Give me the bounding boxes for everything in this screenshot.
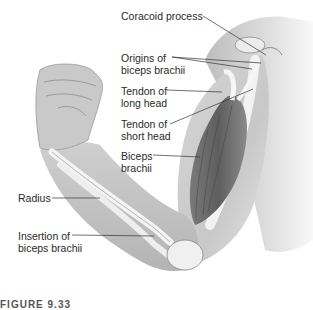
figure-caption: FIGURE 9.33	[0, 299, 71, 310]
label-line-1: Tendon of	[121, 118, 171, 130]
label-radius: Radius	[18, 192, 51, 204]
label-biceps-brachii: Biceps brachii	[121, 150, 153, 174]
label-line-2: long head	[121, 97, 167, 109]
label-text: Coracoid process	[121, 10, 203, 22]
label-line-1: Biceps	[121, 150, 153, 162]
label-insertion-of-biceps-brachii: Insertion of biceps brachii	[18, 230, 82, 254]
elbow-joint	[167, 240, 203, 270]
label-origins-of-biceps-brachii: Origins of biceps brachii	[121, 52, 185, 76]
label-tendon-of-short-head: Tendon of short head	[121, 118, 171, 142]
label-tendon-of-long-head: Tendon of long head	[121, 85, 167, 109]
label-line-2: biceps brachii	[121, 64, 185, 76]
label-line-1: Tendon of	[121, 85, 167, 97]
label-line-2: brachii	[121, 162, 153, 174]
label-line-1: Origins of	[121, 52, 185, 64]
label-line-2: biceps brachii	[18, 242, 82, 254]
label-coracoid-process: Coracoid process	[121, 10, 203, 22]
label-line-1: Insertion of	[18, 230, 82, 242]
label-text: Radius	[18, 192, 51, 204]
label-line-2: short head	[121, 130, 171, 142]
